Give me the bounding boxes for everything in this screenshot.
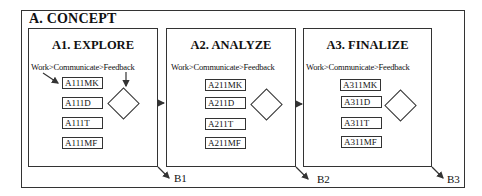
connector-arrows — [0, 0, 482, 196]
arrow-icon — [158, 167, 169, 178]
arrow-icon — [296, 167, 308, 179]
arrow-icon — [43, 73, 58, 83]
arrow-icon — [432, 167, 443, 178]
